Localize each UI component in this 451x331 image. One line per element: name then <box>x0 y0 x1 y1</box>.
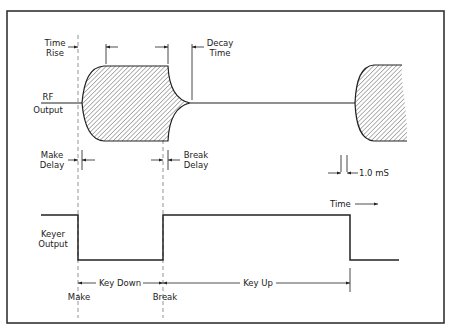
decay-time-line-2: Time <box>203 48 237 58</box>
time-rise-line-2: Rise <box>40 48 70 58</box>
scale-label: 1.0 mS <box>359 168 389 178</box>
key-up-label: Key Up <box>240 278 276 288</box>
break-delay-line-2: Delay <box>180 160 212 170</box>
break-label: Break <box>150 292 180 302</box>
break-delay-label: Break Delay <box>180 150 212 170</box>
keyer-output-line-2: Output <box>33 239 73 249</box>
time-axis-label: Time <box>330 199 351 209</box>
keyer-output-line-1: Keyer <box>33 229 73 239</box>
make-delay-line-1: Make <box>37 150 67 160</box>
make-label: Make <box>64 292 94 302</box>
rf-output-label: RF Output <box>26 91 70 117</box>
key-down-label: Key Down <box>96 278 144 288</box>
rf-output-line-1: RF <box>26 91 70 104</box>
rf-burst-1 <box>82 66 190 141</box>
decay-time-label: Decay Time <box>203 38 237 58</box>
keyer-waveform <box>41 215 399 260</box>
decay-time-line-1: Decay <box>203 38 237 48</box>
break-delay-line-1: Break <box>180 150 212 160</box>
time-rise-line-1: Time <box>40 38 70 48</box>
rf-burst-2 <box>355 65 407 141</box>
time-rise-label: Time Rise <box>40 38 70 58</box>
keyer-output-label: Keyer Output <box>33 229 73 249</box>
make-delay-line-2: Delay <box>37 160 67 170</box>
rf-output-line-2: Output <box>26 104 70 117</box>
make-delay-label: Make Delay <box>37 150 67 170</box>
